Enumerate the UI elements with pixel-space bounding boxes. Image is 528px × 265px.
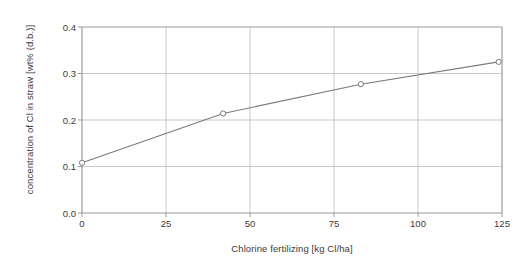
data-point-marker (79, 160, 84, 165)
data-series-markers (79, 59, 501, 165)
x-tick-label-50: 50 (230, 219, 270, 229)
x-tick-label-125: 125 (482, 219, 522, 229)
data-series-line (82, 62, 499, 163)
horizontal-gridlines (82, 74, 502, 167)
data-point-marker (496, 59, 501, 64)
data-point-marker (221, 111, 226, 116)
x-tick-label-100: 100 (398, 219, 438, 229)
x-tick-label-25: 25 (146, 219, 186, 229)
x-axis-title: Chlorine fertilizing [kg Cl/ha] (82, 243, 502, 254)
x-tick-label-75: 75 (314, 219, 354, 229)
data-point-marker (358, 82, 363, 87)
x-axis-ticks (82, 213, 502, 217)
chart-figure: concentration of Cl in straw [wt% (d.b.)… (0, 0, 528, 265)
x-tick-label-0: 0 (62, 219, 102, 229)
